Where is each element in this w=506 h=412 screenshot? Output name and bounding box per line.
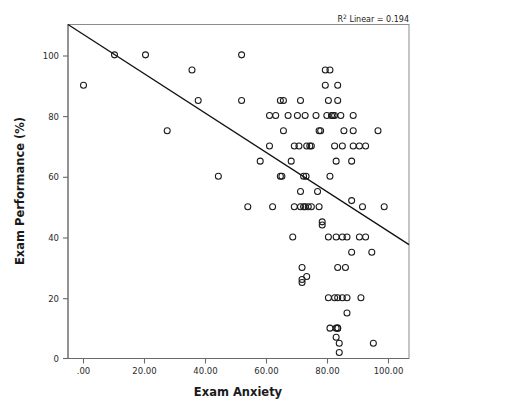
x-tick-label: 60.00 xyxy=(254,366,278,376)
x-tick-label: 20.00 xyxy=(132,366,156,376)
data-point xyxy=(299,264,305,270)
data-point xyxy=(344,310,350,316)
data-point xyxy=(239,52,245,58)
data-point xyxy=(315,189,321,195)
data-point xyxy=(291,204,297,210)
data-point xyxy=(356,234,362,240)
x-tick-label: 100.00 xyxy=(374,366,404,376)
data-point xyxy=(215,173,221,179)
data-point xyxy=(294,113,300,119)
data-point xyxy=(81,82,87,88)
x-axis-ticks xyxy=(84,359,389,364)
data-point xyxy=(298,97,304,103)
x-tick-label: 80.00 xyxy=(315,366,339,376)
data-point xyxy=(350,113,356,119)
data-point xyxy=(339,143,345,149)
data-point xyxy=(304,274,310,280)
data-point xyxy=(288,158,294,164)
data-point xyxy=(360,204,366,210)
regression-fit-line xyxy=(68,25,409,245)
data-point xyxy=(349,198,355,204)
data-point xyxy=(270,204,276,210)
y-tick-label: 80 xyxy=(48,112,59,122)
data-point xyxy=(302,113,308,119)
data-point xyxy=(325,295,331,301)
data-point xyxy=(325,234,331,240)
data-point xyxy=(350,143,356,149)
svg-text:R2 Linear = 0.194: R2 Linear = 0.194 xyxy=(338,13,410,24)
data-point xyxy=(363,143,369,149)
data-point xyxy=(257,158,263,164)
data-point xyxy=(342,264,348,270)
data-point xyxy=(349,249,355,255)
data-point xyxy=(356,143,362,149)
data-point xyxy=(369,249,375,255)
data-point xyxy=(290,234,296,240)
data-point xyxy=(333,234,339,240)
plot-frame xyxy=(68,25,409,359)
data-point xyxy=(375,128,381,134)
data-point xyxy=(325,97,331,103)
data-point xyxy=(335,97,341,103)
data-point xyxy=(333,334,339,340)
data-point xyxy=(336,340,342,346)
data-point xyxy=(338,113,344,119)
data-point xyxy=(285,113,291,119)
data-point xyxy=(363,234,369,240)
data-point xyxy=(358,295,364,301)
data-point xyxy=(322,82,328,88)
data-point xyxy=(350,128,356,134)
y-axis-ticks xyxy=(63,56,68,359)
data-point xyxy=(267,143,273,149)
data-point xyxy=(335,264,341,270)
data-point xyxy=(370,340,376,346)
data-point xyxy=(335,82,341,88)
data-layer xyxy=(68,25,409,356)
y-axis-tick-labels: 0 20 40 60 80 100 xyxy=(43,51,59,364)
data-point xyxy=(327,173,333,179)
x-tick-label: .00 xyxy=(77,366,91,376)
data-point xyxy=(332,143,338,149)
data-point xyxy=(341,128,347,134)
scatter-plot-figure: 0 20 40 60 80 100 .00 20.00 40.00 60.00 … xyxy=(0,0,506,412)
x-tick-label: 40.00 xyxy=(193,366,217,376)
r-squared-annotation: R2 Linear = 0.194 xyxy=(338,13,410,24)
data-point xyxy=(313,113,319,119)
data-point xyxy=(298,189,304,195)
data-point xyxy=(327,325,333,331)
y-tick-label: 0 xyxy=(54,354,59,364)
data-point xyxy=(316,204,322,210)
y-tick-label: 20 xyxy=(48,294,59,304)
data-point xyxy=(333,158,339,164)
data-point xyxy=(195,97,201,103)
y-tick-label: 100 xyxy=(43,51,59,61)
data-point xyxy=(245,204,251,210)
y-tick-label: 40 xyxy=(48,233,59,243)
x-axis-tick-labels: .00 20.00 40.00 60.00 80.00 100.00 xyxy=(77,366,404,376)
data-point xyxy=(336,349,342,355)
y-axis-title: Exam Performance (%) xyxy=(13,117,27,265)
data-point xyxy=(239,97,245,103)
data-point xyxy=(349,158,355,164)
r-squared-value-text: Linear = 0.194 xyxy=(347,15,409,24)
x-axis-title: Exam Anxiety xyxy=(194,385,283,399)
plot-canvas: 0 20 40 60 80 100 .00 20.00 40.00 60.00 … xyxy=(0,0,506,412)
data-point xyxy=(143,52,149,58)
data-point xyxy=(267,113,273,119)
data-point xyxy=(189,67,195,73)
data-point xyxy=(273,113,279,119)
data-point xyxy=(381,204,387,210)
data-point xyxy=(164,128,170,134)
data-point xyxy=(280,128,286,134)
y-tick-label: 60 xyxy=(48,172,59,182)
